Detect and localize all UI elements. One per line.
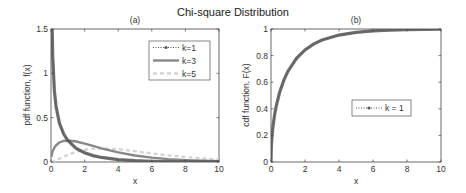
panel-b-xtick-label: 2 xyxy=(303,164,308,174)
panel-b-ytick-label: 0.6 xyxy=(256,77,268,87)
panel-a-xtick-label: 4 xyxy=(116,164,121,174)
chi-square-figure: Chi-square Distribution (a) 024681000.51… xyxy=(0,0,466,193)
panel-b-legend: k = 1 xyxy=(352,100,411,116)
panel-b-ylabel: cdf function, F(x) xyxy=(241,63,251,126)
panel-b-legend-label: k = 1 xyxy=(385,103,404,113)
panel-b-ytick-label: 0.2 xyxy=(256,130,268,140)
panel-a-xtick-label: 6 xyxy=(149,164,154,174)
panel-a-legend-label: k=1 xyxy=(182,43,196,53)
figure-title: Chi-square Distribution xyxy=(177,6,289,18)
panel-b-axes-box xyxy=(271,29,441,162)
panel-a-legend-label: k=5 xyxy=(182,69,196,79)
panel-a-ytick-label: 1 xyxy=(43,68,48,78)
panel-b-ytick-label: 0.8 xyxy=(256,51,268,61)
panel-b-cdf: (b) 024681000.20.40.60.81 x cdf function… xyxy=(241,15,446,186)
panel-a-xtick-label: 2 xyxy=(82,164,87,174)
panel-a-legend-label: k=3 xyxy=(182,56,196,66)
panel-b-xlabel: x xyxy=(354,176,359,186)
panel-a-legend-marker xyxy=(164,46,167,49)
panel-b-xtick-label: 4 xyxy=(337,164,342,174)
panel-a-xtick-label: 10 xyxy=(214,164,224,174)
panel-a-xlabel: x xyxy=(133,176,138,186)
panel-b-ytick-label: 0 xyxy=(263,157,268,167)
panel-a-pdf: (a) 024681000.511.5 x pdf function, f(x)… xyxy=(22,0,224,186)
panel-b-legend-marker xyxy=(367,106,370,109)
panel-b-xtick-label: 10 xyxy=(436,164,446,174)
panel-b-xtick-label: 6 xyxy=(371,164,376,174)
panel-a-ytick-label: 0.5 xyxy=(36,113,48,123)
panel-a-ylabel: pdf function, f(x) xyxy=(22,64,32,125)
panel-a-ytick-label: 0 xyxy=(43,157,48,167)
panel-b-ytick-label: 0.4 xyxy=(256,104,268,114)
panel-a-legend: k=1k=3k=5 xyxy=(149,41,210,80)
panel-b-ytick-label: 1 xyxy=(263,24,268,34)
panel-b-title: (b) xyxy=(351,15,362,25)
panel-a-xtick-label: 8 xyxy=(183,164,188,174)
panel-b-xtick-label: 8 xyxy=(405,164,410,174)
panel-a-xtick-label: 0 xyxy=(49,164,54,174)
panel-a-title: (a) xyxy=(130,15,141,25)
panel-a-ytick-label: 1.5 xyxy=(36,24,48,34)
panel-b-xtick-label: 0 xyxy=(269,164,274,174)
